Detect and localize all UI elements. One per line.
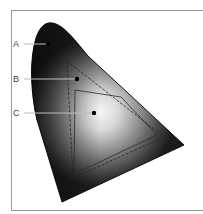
chromaticity-diagram — [0, 0, 203, 214]
marker-dot-a — [46, 42, 50, 46]
marker-dot-b — [75, 77, 79, 81]
label-b: B — [13, 74, 19, 84]
label-a: A — [13, 39, 19, 49]
marker-dot-c — [92, 111, 96, 115]
spectral-locus-shading — [32, 23, 184, 202]
label-c: C — [13, 108, 20, 118]
